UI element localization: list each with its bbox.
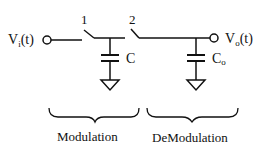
switch-1-blade bbox=[84, 30, 94, 38]
capacitor-c bbox=[101, 38, 119, 80]
demodulation-brace bbox=[147, 108, 238, 122]
sampling-circuit-diagram: Vi(t) 1 2 C Co Vo(t) Modulation DeModula… bbox=[0, 0, 263, 152]
capacitor-co bbox=[187, 38, 205, 80]
switch-2-label: 2 bbox=[129, 12, 136, 27]
ground-icon bbox=[101, 80, 119, 90]
capacitor-co-label: Co bbox=[212, 51, 226, 67]
ground-icon bbox=[187, 80, 205, 90]
modulation-label: Modulation bbox=[57, 129, 118, 144]
modulation-brace bbox=[49, 108, 139, 122]
input-terminal bbox=[43, 36, 51, 44]
capacitor-c-label: C bbox=[126, 51, 135, 66]
output-voltage-label: Vo(t) bbox=[225, 31, 253, 48]
output-terminal bbox=[210, 34, 218, 42]
input-voltage-label: Vi(t) bbox=[8, 32, 34, 49]
demodulation-label: DeModulation bbox=[152, 130, 228, 145]
switch-2-blade bbox=[131, 29, 139, 38]
switch-1-label: 1 bbox=[81, 12, 88, 27]
